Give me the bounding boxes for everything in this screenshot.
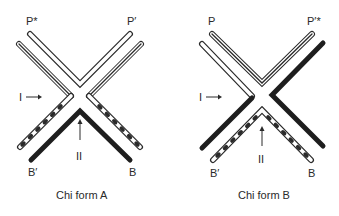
chi-form-b-panel: P P′* I II B′ B Chi form B [170,0,339,216]
arrow-right-icon [206,95,222,100]
chi-form-b-diagram [170,0,339,216]
chi-form-a-diagram [0,0,170,216]
caption-chi-form-b: Chi form B [238,189,290,201]
label-arrow-ii: II [76,150,82,162]
strand-lower-left-dashed [20,96,71,147]
caption-chi-form-a: Chi form A [56,189,107,201]
label-b-prime: B′ [210,167,219,179]
label-arrow-ii: II [258,153,264,165]
arrow-up-icon [78,119,83,140]
label-p-prime-star: P′* [307,15,321,27]
label-p-star: P* [26,15,38,27]
strand-lower-right-dashed [89,96,140,147]
label-p: P [208,15,215,27]
label-b-prime: B′ [28,166,37,178]
label-p-prime: P′ [127,15,136,27]
arrow-up-icon [260,126,265,146]
strand-top-v-triple [212,34,312,83]
label-b: B [129,166,136,178]
chi-form-a-panel: P* P′ I II B′ B Chi form A [0,0,170,216]
label-arrow-i: I [19,91,22,103]
strand-top-v-open [30,34,130,84]
strand-lower-left-solid [202,98,252,148]
arrow-right-icon [26,95,42,100]
label-b: B [308,167,315,179]
label-arrow-i: I [199,91,202,103]
